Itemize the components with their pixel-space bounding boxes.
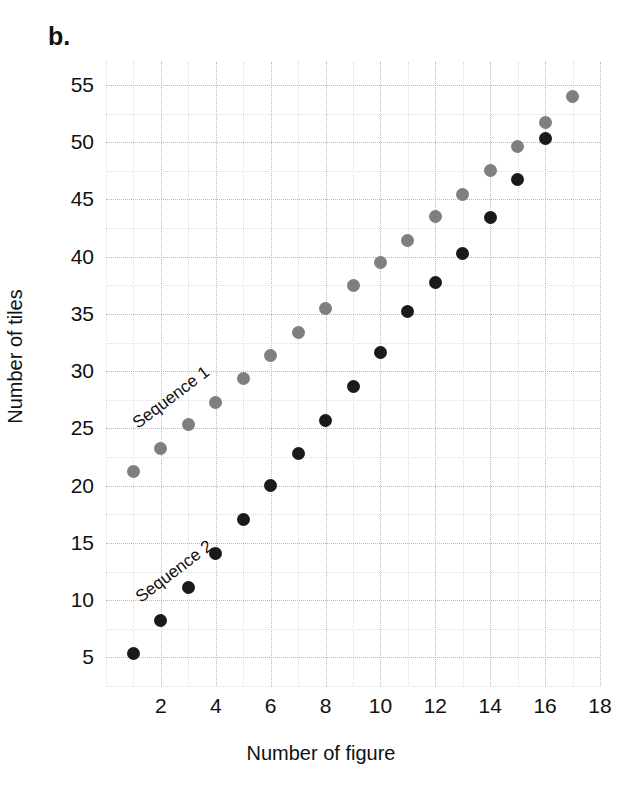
gridline-y-minor: [106, 686, 600, 687]
y-tick-label: 45: [38, 187, 94, 211]
figure-panel-b: b. Sequence 1Sequence 2 5101520253035404…: [0, 0, 642, 792]
x-tick-label: 2: [155, 694, 167, 718]
x-tick-label: 18: [588, 694, 611, 718]
x-tick-label: 4: [210, 694, 222, 718]
series-annotations-layer: Sequence 1Sequence 2: [106, 62, 600, 686]
series-annotation-1: Sequence 1: [129, 362, 214, 433]
x-tick-label: 12: [424, 694, 447, 718]
y-tick-label: 10: [38, 588, 94, 612]
series-annotation-2: Sequence 2: [132, 536, 217, 607]
gridline-x-major: [600, 62, 601, 686]
y-tick-label: 20: [38, 474, 94, 498]
x-tick-label: 14: [479, 694, 502, 718]
y-tick-label: 15: [38, 531, 94, 555]
y-tick-label: 35: [38, 302, 94, 326]
x-tick-label: 8: [320, 694, 332, 718]
y-tick-label: 30: [38, 359, 94, 383]
x-tick-label: 16: [533, 694, 556, 718]
x-axis-title: Number of figure: [0, 742, 642, 765]
scatter-plot-area: Sequence 1Sequence 2 5101520253035404550…: [106, 62, 600, 686]
y-tick-label: 50: [38, 130, 94, 154]
y-tick-label: 25: [38, 416, 94, 440]
y-tick-label: 55: [38, 73, 94, 97]
panel-label: b.: [48, 22, 70, 51]
y-axis-title: Number of tiles: [4, 97, 27, 617]
x-tick-label: 6: [265, 694, 277, 718]
y-tick-label: 40: [38, 245, 94, 269]
y-tick-label: 5: [38, 645, 94, 669]
x-tick-label: 10: [369, 694, 392, 718]
